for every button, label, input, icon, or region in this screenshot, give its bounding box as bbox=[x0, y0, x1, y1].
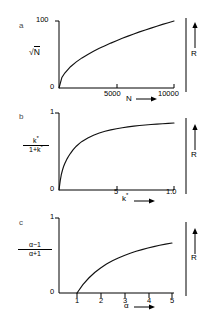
panel-a-letter: a bbox=[19, 22, 23, 30]
panel-c-x-tick-label-1: 1 bbox=[75, 297, 79, 305]
panel-c-y-axis-label: α−1 α+1 bbox=[18, 241, 52, 258]
panel-c-x-tick-label-2: 2 bbox=[99, 297, 103, 305]
panel-b-y-axis-denominator: 1+k* bbox=[23, 146, 49, 153]
panel-b-x-axis-label: k* bbox=[122, 195, 128, 203]
panel-a-y-tick-label-zero: 0 bbox=[50, 83, 54, 91]
panel-c-x-axis-label: α bbox=[124, 302, 129, 310]
panel-b-y-tick-label-top: 1 bbox=[50, 108, 54, 116]
panel-b-x-tick-label-2: 1.0 bbox=[166, 188, 176, 196]
panel-b-y-den-text: 1+k bbox=[29, 146, 40, 153]
panel-c-y-axis-denominator: α+1 bbox=[18, 250, 52, 257]
panel-b-y-axis-label: k* 1+k* bbox=[23, 137, 49, 154]
panel-b-x-label-star: * bbox=[126, 192, 128, 198]
panel-a-y-tick-label-top: 100 bbox=[36, 16, 49, 24]
panel-a-x-tick-label-1: 5000 bbox=[104, 90, 121, 98]
panel-a-y-axis-label-text: N bbox=[34, 46, 40, 57]
panel-c: c 1 0 α−1 α+1 1 2 3 4 5 α R bbox=[0, 208, 205, 315]
panel-b-r-label: R bbox=[191, 151, 197, 159]
panel-b-x-tick-label-1: 5 bbox=[114, 188, 118, 196]
panel-a-y-axis-label: √N bbox=[29, 48, 40, 57]
panel-c-y-axis-numerator: α−1 bbox=[18, 241, 52, 248]
panel-b-num-star: * bbox=[37, 135, 39, 141]
panel-a-x-tick-label-2: 10000 bbox=[158, 90, 179, 98]
panel-a-x-axis-label: N bbox=[126, 95, 132, 103]
panel-c-y-tick-label-zero: 0 bbox=[50, 288, 54, 296]
panel-c-letter: c bbox=[19, 219, 23, 227]
three-panel-figure: a 100 0 √N 5000 10000 N R b 1 0 k* 1+k* … bbox=[0, 0, 205, 315]
panel-c-r-label: R bbox=[191, 254, 197, 262]
panel-b-y-tick-label-zero: 0 bbox=[50, 185, 54, 193]
panel-a: a 100 0 √N 5000 10000 N R bbox=[0, 0, 205, 110]
panel-c-x-tick-label-5: 5 bbox=[170, 297, 174, 305]
panel-c-y-tick-label-top: 1 bbox=[50, 213, 54, 221]
panel-b-letter: b bbox=[19, 113, 23, 121]
panel-b-y-axis-numerator: k* bbox=[23, 137, 49, 144]
panel-c-x-tick-label-4: 4 bbox=[147, 297, 151, 305]
panel-b-den-star: * bbox=[41, 144, 43, 150]
panel-b: b 1 0 k* 1+k* 5 1.0 k* R bbox=[0, 103, 205, 208]
panel-a-r-label: R bbox=[191, 50, 197, 58]
